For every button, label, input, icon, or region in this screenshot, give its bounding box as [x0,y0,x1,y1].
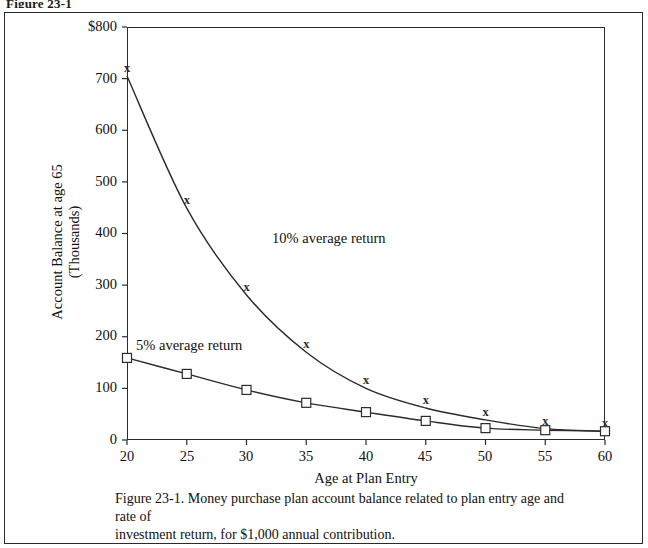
svg-text:x: x [184,193,191,207]
y-tick-label: 0 [45,432,117,446]
caption-line-1: Figure 23-1. Money purchase plan account… [115,491,564,524]
series-annotation-five-percent: 5% average return [136,337,242,354]
svg-text:x: x [243,280,250,294]
y-tick-label: $800 [45,19,117,33]
x-tick-label: 50 [465,448,505,465]
svg-text:x: x [363,373,370,387]
y-tick-label: 100 [45,380,117,394]
series-annotation-ten-percent: 10% average return [272,230,386,247]
svg-text:x: x [482,405,489,419]
y-axis-title-line1: Account Balance at age 65 [49,164,65,319]
x-tick-label: 40 [346,448,386,465]
svg-text:x: x [303,337,310,351]
x-tick-label: 25 [167,448,207,465]
x-tick-label: 20 [107,448,147,465]
svg-text:x: x [124,61,131,75]
x-tick-label: 30 [226,448,266,465]
x-tick-label: 45 [405,448,445,465]
series-five-percent [123,353,610,435]
svg-text:x: x [423,393,430,407]
y-axis-title-line2: (Thousands) [66,132,83,352]
x-tick-label: 35 [286,448,326,465]
y-axis-title: Account Balance at age 65 (Thousands) [49,132,83,352]
x-tick-label: 60 [585,448,625,465]
y-tick-label: 700 [45,71,117,85]
caption-line-2: investment return, for $1,000 annual con… [115,526,585,544]
figure-caption: Figure 23-1. Money purchase plan account… [115,490,585,544]
x-axis-title: Age at Plan Entry [127,470,605,487]
x-tick-label: 55 [525,448,565,465]
